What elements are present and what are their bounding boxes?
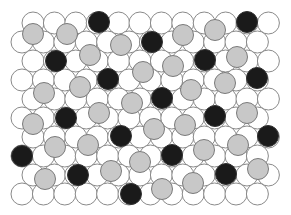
white-circle <box>11 69 33 91</box>
gray-circle <box>133 62 154 83</box>
black-circle <box>152 88 173 109</box>
gray-circle <box>181 80 202 101</box>
white-circle <box>204 183 226 205</box>
black-circle <box>56 108 77 129</box>
gray-circle <box>237 103 258 124</box>
gray-circle <box>23 24 44 45</box>
gray-circle <box>173 25 194 46</box>
black-circle <box>237 12 258 33</box>
white-circle <box>75 183 97 205</box>
circle-packing-diagram <box>0 0 291 215</box>
white-circle <box>150 12 172 34</box>
gray-circle <box>78 135 99 156</box>
black-circle <box>195 50 216 71</box>
gray-circle <box>194 140 215 161</box>
black-circle <box>205 106 226 127</box>
gray-circle <box>35 169 56 190</box>
gray-circle <box>215 73 236 94</box>
black-circle <box>162 145 183 166</box>
black-circle <box>89 12 110 33</box>
gray-circle <box>122 93 143 114</box>
gray-circle <box>163 56 184 77</box>
black-circle <box>142 32 163 53</box>
white-circle <box>108 12 130 34</box>
white-circle <box>246 31 268 53</box>
white-circle <box>257 88 279 110</box>
white-circle <box>225 183 247 205</box>
white-circle <box>129 12 151 34</box>
gray-circle <box>45 137 66 158</box>
white-circle <box>246 183 268 205</box>
black-circle <box>121 184 142 205</box>
gray-circle <box>70 77 91 98</box>
black-circle <box>98 69 119 90</box>
white-circle <box>54 183 76 205</box>
gray-circle <box>89 103 110 124</box>
gray-circle <box>175 115 196 136</box>
black-circle <box>216 164 237 185</box>
gray-circle <box>228 135 249 156</box>
white-circle <box>22 50 44 72</box>
black-circle <box>12 146 33 167</box>
gray-circle <box>101 161 122 182</box>
gray-circle <box>34 83 55 104</box>
black-circle <box>68 165 89 186</box>
black-circle <box>111 126 132 147</box>
gray-circle <box>80 45 101 66</box>
gray-circle <box>205 20 226 41</box>
gray-circle <box>111 35 132 56</box>
gray-circle <box>152 179 173 200</box>
black-circle <box>46 51 67 72</box>
white-circle <box>11 183 33 205</box>
black-circle <box>247 68 268 89</box>
gray-circle <box>57 24 78 45</box>
gray-circle <box>227 47 248 68</box>
white-circle <box>257 12 279 34</box>
gray-circle <box>23 114 44 135</box>
gray-circle <box>248 159 269 180</box>
gray-circle <box>144 119 165 140</box>
black-circle <box>258 126 279 147</box>
white-circle <box>97 183 119 205</box>
gray-circle <box>183 173 204 194</box>
gray-circle <box>130 152 151 173</box>
